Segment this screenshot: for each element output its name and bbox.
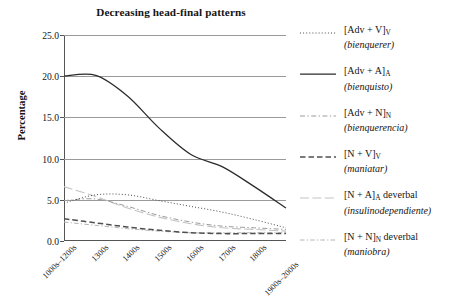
- series-line: [64, 194, 286, 228]
- y-axis-label: Percentage: [16, 71, 27, 161]
- series-line: [64, 74, 286, 208]
- legend-example-label: (bienquerer): [344, 39, 460, 51]
- legend-pattern-text: [Adv + N]: [344, 107, 386, 118]
- legend-example-label: (maniobra): [344, 246, 460, 258]
- legend-swatch-solid-icon: [300, 72, 336, 76]
- legend-swatch-dashdot-light-icon: [300, 238, 336, 242]
- legend-example-label: (maniatar): [344, 163, 460, 175]
- x-tick-label: 1500s: [153, 243, 174, 264]
- legend-pattern-text: [N + N]: [344, 231, 376, 242]
- legend-item: [N + A]A deverbal(insulinodependiente): [300, 189, 460, 217]
- chart-figure: Decreasing head-final patterns Percentag…: [0, 0, 462, 305]
- chart-legend: [Adv + V]V(bienquerer)[Adv + A]A(bienqui…: [300, 24, 460, 272]
- legend-pattern-label: [N + V]V: [344, 148, 460, 163]
- legend-pattern-text: [N + A]: [344, 189, 375, 200]
- legend-swatch-dashdot-icon: [300, 114, 336, 118]
- legend-pattern-subscript: V: [386, 28, 391, 37]
- x-tick-label: 1900s–2000s: [263, 260, 301, 298]
- legend-item: [Adv + V]V(bienquerer): [300, 24, 460, 52]
- legend-pattern-subscript: N: [386, 111, 391, 120]
- legend-item: [Adv + A]A(bienquisto): [300, 65, 460, 93]
- legend-item: [N + N]N deverbal(maniobra): [300, 231, 460, 259]
- chart-title: Decreasing head-final patterns: [55, 6, 287, 18]
- x-tick-label: 1600s: [185, 243, 206, 264]
- x-tick-label: 1300s: [90, 243, 111, 264]
- x-tick-label: 1000s–1200s: [41, 243, 79, 281]
- y-tick-label: 5.0: [47, 194, 59, 205]
- legend-swatch-longdash-light-icon: [300, 196, 336, 200]
- y-tick-label: 15.0: [42, 112, 59, 123]
- y-tick-label: 25.0: [42, 30, 59, 41]
- x-tick-label: 1800s: [248, 243, 269, 264]
- legend-pattern-label: [N + A]A deverbal: [344, 189, 460, 204]
- series-line: [64, 199, 286, 230]
- x-tick-label: 1400s: [121, 243, 142, 264]
- legend-pattern-subscript: A: [385, 69, 390, 78]
- legend-example-label: (bienquerencia): [344, 122, 460, 134]
- legend-swatch-dashed-icon: [300, 155, 336, 159]
- legend-example-label: (bienquisto): [344, 81, 460, 93]
- legend-pattern-text: [Adv + V]: [344, 24, 386, 35]
- legend-swatch-dotted-icon: [300, 31, 336, 35]
- legend-pattern-suffix: deverbal: [381, 189, 418, 200]
- plot-area: 0.05.010.015.020.025.0: [64, 35, 286, 241]
- legend-pattern-label: [Adv + N]N: [344, 107, 460, 122]
- series-lines: [64, 35, 286, 241]
- legend-item: [Adv + N]N(bienquerencia): [300, 107, 460, 135]
- legend-pattern-suffix: deverbal: [381, 231, 418, 242]
- legend-pattern-text: [N + V]: [344, 148, 376, 159]
- legend-pattern-label: [N + N]N deverbal: [344, 231, 460, 246]
- y-tick-label: 20.0: [42, 71, 59, 82]
- legend-pattern-text: [Adv + A]: [344, 65, 385, 76]
- y-tick-label: 10.0: [42, 153, 59, 164]
- legend-item: [N + V]V(maniatar): [300, 148, 460, 176]
- x-tick-label: 1700s: [216, 243, 237, 264]
- y-tick-mark: [60, 241, 64, 242]
- y-tick-label: 0.0: [47, 236, 59, 247]
- legend-pattern-subscript: V: [376, 152, 381, 161]
- legend-pattern-label: [Adv + A]A: [344, 65, 460, 80]
- legend-example-label: (insulinodependiente): [344, 205, 460, 217]
- x-axis-ticks: 1000s–1200s1300s1400s1500s1600s1700s1800…: [64, 243, 286, 303]
- series-line: [64, 187, 286, 231]
- legend-pattern-label: [Adv + V]V: [344, 24, 460, 39]
